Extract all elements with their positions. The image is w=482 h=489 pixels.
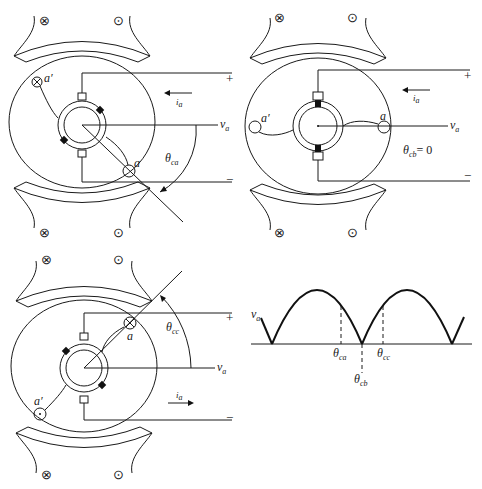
- coil-axis: [82, 125, 183, 222]
- arrowhead-icon: [160, 186, 167, 192]
- coil-a-prime-label: a′: [44, 71, 53, 85]
- bottom-pole-pair: [250, 184, 386, 230]
- angle-label: θcc: [166, 320, 179, 336]
- waveform-segment: [452, 317, 464, 344]
- dc-machine-commutation-figure: ⊗ ⊙ ⊗ ⊙ a a′ θca: [0, 0, 482, 489]
- brush-top: [78, 93, 86, 100]
- pole-out-icon: ⊙: [347, 10, 358, 25]
- theta-cc-label: θcc: [377, 346, 390, 362]
- voltage-label: va: [450, 118, 459, 134]
- minus-terminal: −: [226, 172, 233, 187]
- panel-b: ⊗ ⊙ ⊗ ⊙ a a′ ia θcb= 0 + − va: [245, 10, 471, 240]
- brush-top: [80, 333, 88, 340]
- current-label: ia: [176, 97, 183, 109]
- pole-into-icon: ⊗: [274, 225, 285, 240]
- plus-terminal: +: [226, 71, 233, 86]
- into-page-icon: [34, 79, 41, 86]
- wire-bottom: [318, 160, 470, 181]
- coil-connection: [259, 130, 293, 135]
- coil-a-prime-icon: [249, 121, 261, 133]
- coil-connection: [40, 86, 58, 118]
- minus-terminal: −: [464, 168, 471, 183]
- wire-bottom: [82, 157, 232, 182]
- pole-into-icon: ⊗: [274, 10, 285, 25]
- brush-bottom: [80, 396, 88, 403]
- top-pole-pair: [14, 16, 150, 62]
- commutator-segment: [315, 145, 321, 152]
- voltage-label: va: [217, 360, 226, 376]
- commutator-segment: [98, 381, 106, 389]
- waveform-arch: [362, 290, 452, 344]
- theta-ca-label: θca: [333, 346, 346, 362]
- commutator-segment: [62, 347, 70, 355]
- coil-a-label: a: [134, 156, 140, 170]
- pole-into-icon: ⊗: [41, 252, 52, 267]
- coil-a-label: a: [127, 329, 133, 343]
- pole-into-icon: ⊗: [39, 13, 50, 28]
- wire-top: [318, 70, 470, 92]
- coil-a-label: a: [380, 109, 386, 123]
- plus-terminal: +: [464, 68, 471, 83]
- rectified-waveform: va θca θcb θcc: [251, 290, 472, 388]
- panel-a: ⊗ ⊙ ⊗ ⊙ a a′ θca: [9, 13, 233, 240]
- brush-bottom: [313, 152, 323, 160]
- brush-bottom: [78, 150, 86, 157]
- coil-a-prime-label: a′: [261, 111, 270, 125]
- arrow-right-icon: [188, 400, 194, 406]
- brush-top: [313, 92, 323, 100]
- current-label: ia: [176, 390, 183, 402]
- wire-bottom: [84, 403, 232, 420]
- y-axis-label: va: [251, 307, 260, 323]
- coil-connection: [45, 385, 66, 410]
- minus-terminal: −: [226, 410, 233, 425]
- pole-out-icon: ⊙: [347, 225, 358, 240]
- arrow-left-icon: [402, 87, 408, 93]
- pole-out-icon: ⊙: [113, 467, 124, 482]
- panel-c: ⊗ ⊙ ⊗ ⊙ a a′ θcc ia + − va: [11, 252, 233, 482]
- bottom-pole-pair: [14, 182, 150, 228]
- commutator-segment: [315, 100, 321, 107]
- voltage-label: va: [220, 117, 229, 133]
- pole-out-icon: ⊙: [113, 252, 124, 267]
- top-pole-pair: [250, 18, 386, 64]
- angle-label: θca: [165, 151, 178, 167]
- out-of-page-icon: [39, 413, 41, 415]
- pole-out-icon: ⊙: [113, 225, 124, 240]
- coil-a-prime-label: a′: [34, 394, 43, 408]
- waveform-segment: [261, 318, 272, 344]
- pole-into-icon: ⊗: [39, 225, 50, 240]
- arrow-left-icon: [164, 90, 170, 96]
- angle-label: θcb= 0: [403, 143, 432, 159]
- waveform-arch: [272, 290, 362, 344]
- coil-connection: [343, 121, 378, 126]
- center-dot: [317, 125, 319, 127]
- into-page-icon: [126, 319, 134, 327]
- plus-terminal: +: [226, 310, 233, 325]
- wire-top: [82, 73, 232, 93]
- current-label: ia: [413, 93, 420, 105]
- theta-cb-label: θcb: [354, 372, 367, 388]
- wire-top: [84, 313, 232, 333]
- pole-out-icon: ⊙: [113, 13, 124, 28]
- bottom-pole-pair: [16, 427, 152, 473]
- pole-into-icon: ⊗: [41, 467, 52, 482]
